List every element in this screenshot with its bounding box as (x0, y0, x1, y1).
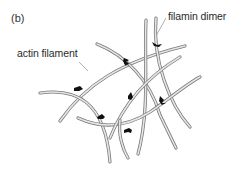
actin-filaments (40, 18, 200, 162)
filament-e (155, 18, 190, 127)
filamin-dimer (124, 128, 132, 133)
actin-filament-label: actin filament (17, 47, 77, 59)
panel-label: (b) (11, 12, 24, 24)
filament-h (120, 120, 128, 158)
filamin-dimer-label: filamin dimer (168, 10, 226, 22)
filamin-dimer (74, 86, 83, 91)
filament-c (97, 44, 176, 148)
actin-leader-line (79, 62, 88, 71)
actin-filamin-network-diagram (0, 0, 241, 172)
filamin-leader-line (156, 18, 166, 36)
